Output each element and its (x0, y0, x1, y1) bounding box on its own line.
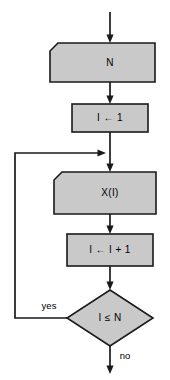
arrowhead-exit-no (106, 366, 113, 375)
flowchart-canvas: N I ← 1 X(I) I ← I + 1 I ≤ N yes no (0, 0, 170, 380)
flowchart-diagram: N I ← 1 X(I) I ← I + 1 I ≤ N yes no (0, 0, 170, 380)
arrowhead-entry (106, 35, 113, 44)
node-input-n-shape[interactable] (50, 43, 155, 82)
arrowhead-n-to-init (106, 96, 113, 105)
arrowhead-loop-back (98, 149, 107, 156)
edge-label-no: no (120, 350, 131, 361)
arrowhead-increment-to-decision (106, 282, 113, 291)
node-init-i-label: I ← 1 (97, 112, 123, 123)
arrowhead-init-to-output (106, 164, 113, 173)
arrowhead-output-to-increment (106, 226, 113, 235)
node-output-xi-label: X(I) (101, 187, 119, 198)
edge-label-yes: yes (42, 300, 57, 311)
node-increment-i-label: I ← I + 1 (89, 244, 131, 255)
node-input-n-label: N (106, 57, 114, 68)
node-decision-label: I ≤ N (98, 312, 121, 323)
